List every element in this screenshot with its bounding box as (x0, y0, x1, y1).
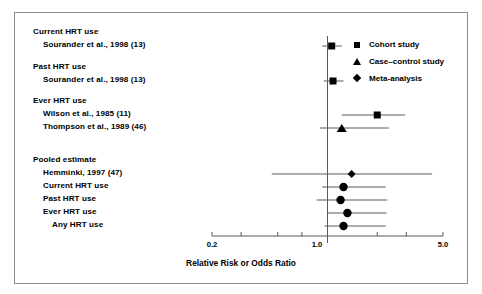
legend-label-meta-analysis: Meta-analysis (369, 74, 422, 83)
legend-item-meta-analysis: Meta-analysis (352, 70, 472, 87)
x-tick-label-0-2: 0.2 (207, 240, 218, 249)
pooled-label-current-hrt: Current HRT use (43, 181, 109, 190)
study-label-thompson: Thompson et al., 1989 (46) (43, 122, 146, 131)
legend-label-case-control-study: Case–control study (369, 57, 444, 66)
pooled-label-ever-hrt: Ever HRT use (43, 207, 97, 216)
group-label-ever-hrt: Ever HRT use (33, 96, 87, 105)
pooled-label-past-hrt: Past HRT use (43, 194, 96, 203)
study-label-sourander-current: Sourander et al., 1998 (13) (43, 40, 146, 49)
group-label-pooled-estimate: Pooled estimate (33, 155, 96, 164)
legend-item-case-control-study: Case–control study (352, 53, 472, 70)
legend: Cohort study Case–control study Meta-ana… (352, 36, 472, 87)
diamond-marker-icon (352, 73, 364, 85)
legend-label-cohort-study: Cohort study (369, 40, 419, 49)
legend-item-cohort-study: Cohort study (352, 36, 472, 53)
x-axis-title: Relative Risk or Odds Ratio (0, 258, 482, 268)
study-label-hemminki: Hemminki, 1997 (47) (43, 168, 122, 177)
study-label-wilson: Wilson et al., 1985 (11) (43, 109, 131, 118)
pooled-label-any-hrt: Any HRT use (52, 220, 103, 229)
group-label-past-hrt: Past HRT use (33, 62, 86, 71)
x-tick-label-1-0: 1.0 (312, 240, 323, 249)
triangle-marker-icon (352, 56, 364, 68)
forest-plot-figure: Current HRT use Sourander et al., 1998 (… (0, 0, 482, 294)
group-label-current-hrt: Current HRT use (33, 27, 99, 36)
x-tick-label-5-0: 5.0 (438, 240, 449, 249)
study-label-sourander-past: Sourander et al., 1998 (13) (43, 75, 146, 84)
square-marker-icon (352, 39, 364, 51)
